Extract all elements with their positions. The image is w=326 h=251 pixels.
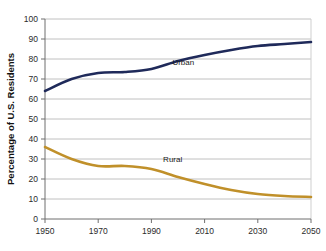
- y-tick-label: 80: [29, 54, 39, 64]
- series-label-rural: Rural: [163, 155, 182, 164]
- x-tick-label: 1990: [142, 226, 161, 236]
- y-tick-label: 70: [29, 74, 39, 84]
- chart-canvas: 0102030405060708090100 19501970199020102…: [0, 0, 326, 251]
- y-tick-label: 20: [29, 174, 39, 184]
- y-tick-label: 40: [29, 134, 39, 144]
- x-tick-label: 2030: [248, 226, 267, 236]
- series-label-urban: Urban: [172, 58, 194, 67]
- y-tick-label: 60: [29, 94, 39, 104]
- line-chart: 0102030405060708090100 19501970199020102…: [0, 0, 326, 251]
- chart-background: [0, 0, 326, 251]
- y-axis-title: Percentage of U.S. Residents: [5, 53, 16, 185]
- y-tick-label: 10: [29, 194, 39, 204]
- x-tick-label: 1970: [89, 226, 108, 236]
- x-tick-label: 2050: [302, 226, 321, 236]
- x-tick-label: 1950: [36, 226, 55, 236]
- y-tick-label: 90: [29, 34, 39, 44]
- y-tick-label: 0: [33, 214, 38, 224]
- y-tick-label: 50: [29, 114, 39, 124]
- y-tick-label: 100: [24, 14, 38, 24]
- x-tick-label: 2010: [195, 226, 214, 236]
- y-tick-label: 30: [29, 154, 39, 164]
